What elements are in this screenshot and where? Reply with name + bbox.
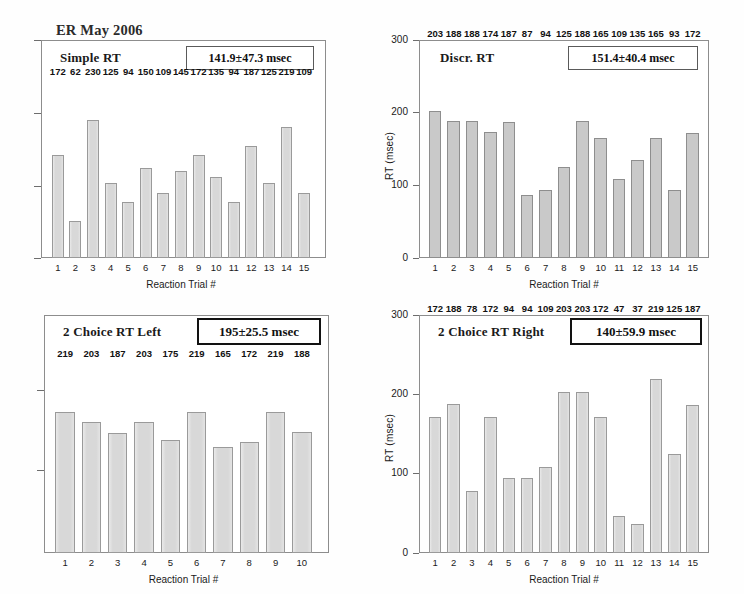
bar-series: 1721887817294941092032031724737219125187	[426, 315, 702, 553]
bar-slot: 165	[592, 40, 610, 258]
bar: 165	[650, 138, 663, 258]
bar-value-label: 203	[427, 29, 443, 39]
bar-slot: 87	[518, 40, 536, 258]
bar-slot: 125	[555, 40, 573, 258]
bar-value-label: 135	[630, 29, 646, 39]
bar-slot: 187	[500, 40, 518, 258]
x-axis-title: Reaction Trial #	[426, 279, 702, 290]
bar-slot: 188	[444, 40, 462, 258]
bar-slot: 37	[628, 315, 646, 553]
bar-value-label: 109	[296, 67, 312, 77]
y-tick-mark	[413, 473, 419, 474]
x-axis-title: Reaction Trial #	[49, 279, 313, 290]
x-tick-label: 9	[573, 263, 591, 273]
bar: 219	[187, 412, 206, 553]
bar-slot: 165	[647, 40, 665, 258]
bar: 78	[466, 491, 479, 553]
bar-value-label: 203	[136, 349, 152, 359]
bar: 219	[55, 412, 74, 553]
x-tick-label: 9	[573, 558, 591, 568]
bar: 47	[613, 516, 626, 553]
bar-value-label: 93	[669, 29, 680, 39]
bar: 203	[558, 392, 571, 553]
bar-value-label: 109	[611, 29, 627, 39]
bar-value-label: 47	[614, 304, 625, 314]
y-tick-mark	[34, 186, 41, 187]
bar: 219	[281, 127, 293, 258]
bar-value-label: 187	[243, 67, 259, 77]
x-tick-label: 13	[260, 263, 278, 273]
bar: 93	[668, 190, 681, 258]
bar-slot: 125	[665, 315, 683, 553]
x-tick-label: 8	[555, 263, 573, 273]
bar-value-label: 219	[279, 67, 295, 77]
bar-value-label: 172	[50, 67, 66, 77]
x-axis-title: Reaction Trial #	[52, 574, 315, 585]
bar: 145	[175, 171, 187, 258]
x-tick-label: 7	[155, 263, 173, 273]
bar-value-label: 230	[85, 67, 101, 77]
bar-value-label: 188	[446, 304, 462, 314]
x-tick-label: 13	[647, 558, 665, 568]
bar-value-label: 203	[84, 349, 100, 359]
x-tick-label: 7	[536, 558, 554, 568]
bar: 62	[69, 221, 81, 258]
panel-two-choice-right: RT (msec) 300 200 100 0 2 Choice RT Righ…	[372, 300, 744, 594]
y-tick-mark	[37, 470, 44, 471]
bar-value-label: 174	[482, 29, 498, 39]
bar: 188	[292, 432, 311, 553]
bar-slot: 93	[665, 40, 683, 258]
x-tick-label: 15	[295, 263, 313, 273]
x-tick-label: 12	[628, 558, 646, 568]
bar-value-label: 219	[189, 349, 205, 359]
y-tick-label: 200	[378, 388, 408, 399]
chart-title: 2 Choice RT Left	[63, 324, 161, 340]
bar-slot: 188	[289, 360, 315, 553]
bar-value-label: 125	[103, 67, 119, 77]
bar-slot: 165	[210, 360, 236, 553]
bar: 172	[52, 155, 64, 258]
bar: 175	[161, 440, 180, 553]
x-tick-label: 14	[665, 558, 683, 568]
x-tick-label: 11	[610, 558, 628, 568]
bar-value-label: 219	[57, 349, 73, 359]
x-tick-label: 5	[119, 263, 137, 273]
y-tick-label: 300	[378, 309, 408, 320]
bar: 188	[576, 121, 589, 258]
bar-slot: 62	[67, 78, 85, 258]
bar: 219	[266, 412, 285, 553]
bar: 172	[193, 155, 205, 258]
x-tick-label: 8	[236, 558, 262, 568]
bar: 135	[210, 177, 222, 258]
bar-slot: 135	[207, 78, 225, 258]
bar-value-label: 145	[173, 67, 189, 77]
bar-slot: 47	[610, 315, 628, 553]
bar-slot: 203	[78, 360, 104, 553]
x-tick-label: 9	[262, 558, 288, 568]
bar-value-label: 172	[191, 67, 207, 77]
y-tick-mark	[34, 40, 41, 41]
y-tick-mark	[413, 553, 419, 554]
bar: 109	[539, 467, 552, 553]
bar-slot: 135	[628, 40, 646, 258]
bar-value-label: 175	[162, 349, 178, 359]
x-tick-label: 3	[463, 558, 481, 568]
bar-value-label: 172	[482, 304, 498, 314]
y-tick-mark	[37, 390, 44, 391]
bar-slot: 109	[155, 78, 173, 258]
bar-value-label: 188	[574, 29, 590, 39]
x-axis-title: Reaction Trial #	[426, 574, 702, 585]
plot-area: 1721887817294941092032031724737219125187	[426, 315, 702, 553]
x-tick-label: 2	[444, 263, 462, 273]
bar-slot: 172	[683, 40, 701, 258]
x-tick-label: 1	[52, 558, 78, 568]
bar: 188	[447, 121, 460, 258]
bar-value-label: 94	[123, 67, 134, 77]
x-tick-label: 14	[278, 263, 296, 273]
x-tick-label: 2	[444, 558, 462, 568]
bar-value-label: 125	[666, 304, 682, 314]
bar-value-label: 94	[503, 304, 514, 314]
bar: 94	[122, 202, 134, 258]
bar-value-label: 165	[648, 29, 664, 39]
bar-slot: 203	[555, 315, 573, 553]
